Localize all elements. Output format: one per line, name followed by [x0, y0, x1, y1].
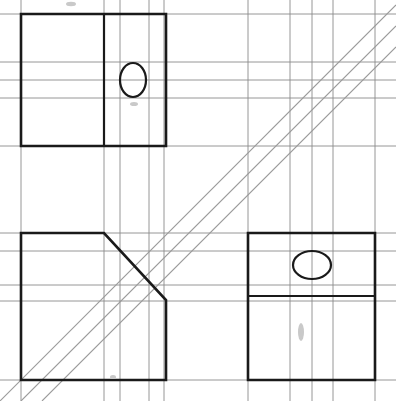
technical-drawing-svg — [0, 0, 396, 401]
drawing-canvas — [0, 0, 396, 401]
